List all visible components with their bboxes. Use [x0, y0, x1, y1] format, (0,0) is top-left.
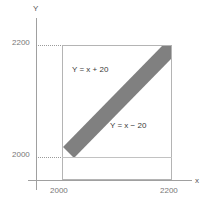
x-tick-label-2200: 2200 — [160, 186, 178, 195]
annotation-upper-boundary: Y = x + 20 — [72, 65, 108, 74]
annotation-lower-boundary: Y = x − 20 — [110, 121, 146, 130]
y-axis-line — [36, 18, 37, 190]
y-axis-title: Y — [33, 4, 38, 13]
region-plot-figure: Y x 2200 2000 2000 2200 Y = x + 20 Y = x… — [0, 0, 210, 204]
baseline-rule-y-2000 — [62, 157, 172, 158]
gridline-y-2200 — [36, 45, 63, 46]
y-tick-label-2000: 2000 — [12, 150, 30, 159]
x-axis-title: x — [195, 176, 199, 185]
x-tick-label-2000: 2000 — [50, 186, 68, 195]
x-axis-line — [28, 180, 192, 181]
gridline-y-2000 — [36, 157, 63, 158]
y-tick-label-2200: 2200 — [12, 38, 30, 47]
